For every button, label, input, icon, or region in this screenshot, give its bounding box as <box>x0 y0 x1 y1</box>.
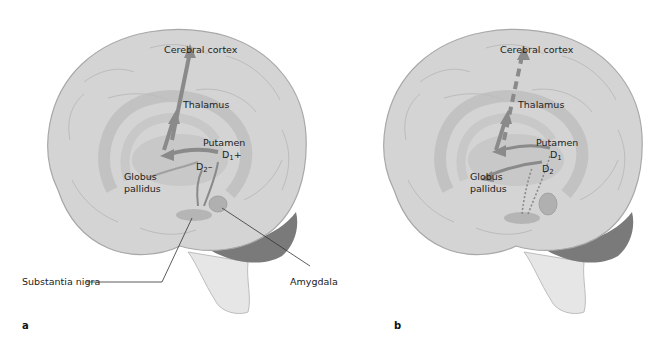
label-globus: Globus <box>124 172 157 182</box>
label-substantia-nigra: Substantia nigra <box>22 277 100 287</box>
panel-letter-a: a <box>22 320 29 331</box>
d1-sign: + <box>234 149 242 160</box>
label-d2: D2 <box>542 164 554 176</box>
label-putamen: Putamen <box>536 138 578 148</box>
panel-b: Cerebral cortex Thalamus Putamen D1 D2 G… <box>336 0 671 341</box>
d2-sub: 2 <box>549 168 553 176</box>
d2-sign: – <box>208 161 213 172</box>
d1-sub: 1 <box>557 154 561 162</box>
label-pallidus: pallidus <box>470 184 507 194</box>
label-amygdala: Amygdala <box>290 277 338 287</box>
substantia-nigra-shape <box>176 209 212 221</box>
label-d1: D1 <box>550 150 562 162</box>
label-putamen: Putamen <box>203 138 245 148</box>
label-cerebral-cortex: Cerebral cortex <box>164 45 237 55</box>
label-globus: Globus <box>470 172 503 182</box>
label-pallidus: pallidus <box>124 184 161 194</box>
brainstem <box>524 252 585 314</box>
label-d1: D1+ <box>222 150 242 162</box>
panel-letter-b: b <box>394 320 401 331</box>
label-cerebral-cortex: Cerebral cortex <box>500 45 573 55</box>
label-thalamus: Thalamus <box>518 100 564 110</box>
label-d2: D2– <box>196 162 213 174</box>
panel-a: Cerebral cortex Thalamus Putamen D1+ D2–… <box>0 0 335 341</box>
label-thalamus: Thalamus <box>183 100 229 110</box>
amygdala-shape <box>539 193 557 215</box>
brainstem <box>188 252 249 314</box>
